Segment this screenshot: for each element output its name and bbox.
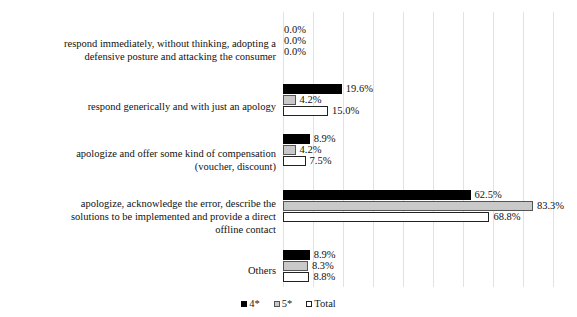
bar-5star	[283, 261, 308, 271]
bar-group: 8.9%8.3%8.8%	[283, 250, 577, 283]
bar-value-label: 8.3%	[312, 261, 334, 272]
bar-value-label: 0.0%	[284, 35, 306, 46]
bar-track: 4.2%	[283, 95, 577, 105]
bar-track: 68.8%	[283, 212, 577, 222]
legend-item[interactable]: Total	[306, 297, 335, 310]
category-label: respond immediately, without thinking, a…	[8, 37, 276, 63]
bar-value-label: 8.8%	[313, 272, 335, 283]
legend-item[interactable]: 4*	[241, 297, 260, 310]
bar-5star	[283, 201, 533, 211]
chart-legend: 4*5*Total	[0, 297, 577, 310]
bar-value-label: 0.0%	[284, 24, 306, 35]
horizontal-bar-chart: respond immediately, without thinking, a…	[0, 0, 577, 317]
bar-group: 62.5%83.3%68.8%	[283, 190, 577, 223]
category-label-line: offline contact	[8, 223, 276, 236]
bar-4star	[283, 190, 471, 200]
legend-label: 4*	[249, 298, 260, 310]
category-label: respond generically and with just an apo…	[8, 100, 276, 113]
bar-total	[283, 212, 489, 222]
legend-label: 5*	[282, 298, 293, 310]
bar-4star	[283, 84, 342, 94]
bar-value-label: 4.2%	[300, 145, 322, 156]
bar-track: 62.5%	[283, 190, 577, 200]
bar-5star	[283, 145, 296, 155]
bar-track: 8.9%	[283, 134, 577, 144]
category-label-line: respond immediately, without thinking, a…	[8, 37, 276, 50]
category-label-line: apologize and offer some kind of compens…	[8, 147, 276, 160]
bar-4star	[283, 134, 310, 144]
legend-swatch-icon	[274, 301, 280, 307]
category-label: apologize and offer some kind of compens…	[8, 147, 276, 173]
bar-value-label: 4.2%	[300, 95, 322, 106]
category-label-line: (voucher, discount)	[8, 160, 276, 173]
bar-group: 8.9%4.2%7.5%	[283, 134, 577, 167]
bar-5star	[283, 95, 296, 105]
category-axis-labels: respond immediately, without thinking, a…	[8, 12, 276, 287]
category-label-line: solutions to be implemented and provide …	[8, 210, 276, 223]
category-label: apologize, acknowledge the error, descri…	[8, 197, 276, 236]
bar-value-label: 0.0%	[284, 46, 306, 57]
bar-track: 19.6%	[283, 84, 577, 94]
bar-value-label: 8.9%	[314, 134, 336, 145]
category-label: Others	[8, 264, 276, 277]
bar-total	[283, 156, 306, 166]
bar-track: 15.0%	[283, 106, 577, 116]
bar-track: 8.8%	[283, 272, 577, 282]
bar-group: 19.6%4.2%15.0%	[283, 84, 577, 117]
legend-swatch-icon	[241, 301, 247, 307]
bar-value-label: 7.5%	[310, 156, 332, 167]
bar-total	[283, 272, 309, 282]
bar-group: 0.0%0.0%0.0%	[283, 24, 577, 58]
bar-value-label: 8.9%	[314, 250, 336, 261]
bar-track: 7.5%	[283, 156, 577, 166]
bar-4star	[283, 250, 310, 260]
bar-track: 8.9%	[283, 250, 577, 260]
bar-track: 83.3%	[283, 201, 577, 211]
bar-value-label: 62.5%	[475, 190, 502, 201]
category-label-line: apologize, acknowledge the error, descri…	[8, 197, 276, 210]
legend-item[interactable]: 5*	[274, 297, 293, 310]
bar-value-label: 19.6%	[346, 84, 373, 95]
category-label-line: Others	[8, 264, 276, 277]
bar-value-label: 68.8%	[493, 212, 520, 223]
bar-value-label: 83.3%	[537, 201, 564, 212]
bar-total	[283, 106, 328, 116]
legend-swatch-icon	[306, 301, 312, 307]
plot-area: 0.0%0.0%0.0%19.6%4.2%15.0%8.9%4.2%7.5%62…	[283, 12, 577, 287]
category-label-line: defensive posture and attacking the cons…	[8, 50, 276, 63]
bar-track: 4.2%	[283, 145, 577, 155]
bar-value-label: 15.0%	[332, 106, 359, 117]
legend-label: Total	[314, 298, 335, 310]
category-label-line: respond generically and with just an apo…	[8, 100, 276, 113]
bar-track: 8.3%	[283, 261, 577, 271]
